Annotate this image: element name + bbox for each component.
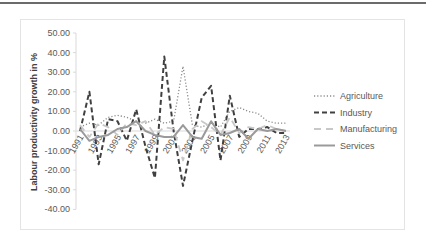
y-tick-label: 0.00: [52, 126, 70, 136]
legend-item-industry: Industry: [340, 108, 373, 118]
x-tick-label: 1991: [67, 133, 86, 155]
y-tick-label: 40.00: [47, 48, 70, 58]
x-tick-label: 1995: [105, 133, 124, 155]
series-lines: [80, 57, 286, 186]
y-axis-label: Labour productivity growth in %: [29, 53, 39, 191]
x-tick-label: 2003: [179, 133, 198, 155]
legend-item-services: Services: [340, 141, 375, 151]
y-tick-label: -20.00: [44, 165, 70, 175]
series-agriculture-line: [80, 66, 286, 127]
y-tick-label: -30.00: [44, 185, 70, 195]
x-tick-label: 2007: [217, 133, 236, 155]
x-tick-label: 2011: [255, 133, 273, 155]
legend-item-manufacturing: Manufacturing: [340, 124, 397, 134]
x-tick-label: 1997: [123, 133, 142, 155]
y-axis: 50.0040.0030.0020.0010.000.00-10.00-20.0…: [44, 28, 76, 214]
y-tick-label: 50.00: [47, 28, 70, 38]
y-tick-label: 30.00: [47, 67, 70, 77]
series-industry-line: [80, 57, 286, 186]
x-tick-label: 2013: [273, 133, 292, 155]
y-tick-label: 20.00: [47, 87, 70, 97]
line-chart: Labour productivity growth in % 50.0040.…: [0, 0, 426, 233]
y-tick-label: 10.00: [47, 106, 70, 116]
legend: AgricultureIndustryManufacturingServices: [314, 91, 397, 151]
x-axis: 1991199319951997199920012003200520072009…: [67, 131, 292, 155]
y-tick-label: -40.00: [44, 204, 70, 214]
x-tick-label: 2005: [198, 133, 217, 155]
legend-item-agriculture: Agriculture: [340, 91, 383, 101]
